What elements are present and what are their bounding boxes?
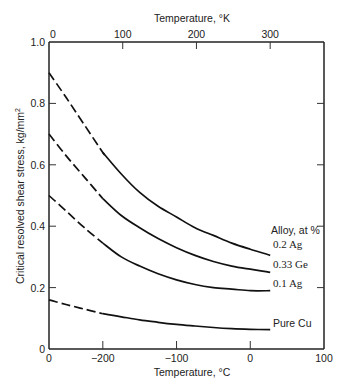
x2-tick-label: 0 [50, 28, 56, 40]
svg-text:Critical resolved shear stress: Critical resolved shear stress, kg/mm2 [14, 108, 26, 284]
shear-stress-chart: 0−200−1000100010020030000.20.40.60.81.0 … [0, 0, 349, 391]
y-tick-label: 0.2 [30, 282, 45, 294]
x2-tick-label: 100 [114, 28, 132, 40]
y-tick-label: 0.4 [30, 220, 45, 232]
top-axis-title: Temperature, °K [154, 12, 230, 24]
series-label-0-33-ge: 0.33 Ge [273, 258, 308, 270]
axis-ticks [49, 42, 324, 349]
x-tick-label: 0 [247, 352, 253, 364]
series-dashed-0 [49, 73, 104, 155]
y-tick-label: 0 [39, 343, 45, 355]
series-dashed-3 [49, 300, 103, 314]
y-axis-title: Critical resolved shear stress, kg/mm2 [14, 108, 26, 284]
y-tick-label: 0.8 [30, 97, 45, 109]
legend-title: Alloy, at % [271, 224, 320, 236]
x-tick-label: 0 [46, 352, 52, 364]
series-label-0-2-ag: 0.2 Ag [273, 238, 303, 250]
x2-tick-label: 300 [261, 28, 279, 40]
y-tick-label: 0.6 [30, 159, 45, 171]
series-solid-2 [103, 243, 270, 291]
series-solid-3 [103, 314, 270, 330]
x-tick-label: −100 [165, 352, 189, 364]
series-dashed-1 [49, 134, 103, 199]
x-tick-label: 100 [315, 352, 333, 364]
axis-tick-labels: 0−200−1000100010020030000.20.40.60.81.0 [30, 28, 333, 364]
y-tick-label: 1.0 [30, 36, 45, 48]
data-curves [49, 73, 270, 330]
series-label-0-1-ag: 0.1 Ag [273, 277, 303, 289]
x-tick-label: −200 [91, 352, 115, 364]
series-dashed-2 [49, 196, 103, 244]
plot-frame [49, 42, 324, 349]
x2-tick-label: 200 [188, 28, 206, 40]
series-solid-0 [103, 153, 270, 256]
series-label-pure-cu: Pure Cu [273, 317, 312, 329]
bottom-axis-title: Temperature, °C [154, 366, 231, 378]
